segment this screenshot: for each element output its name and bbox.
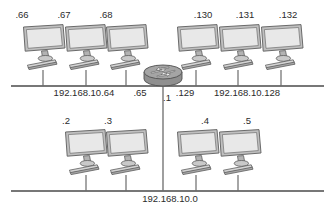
network-diagram: .66 .67 .68 .130 .131 .132 .2 .3 .4 .5 1…	[0, 0, 335, 218]
subnet-label-top-left: 192.168.10.64	[54, 87, 115, 98]
router-interface-label-65: .65	[133, 87, 146, 98]
router-icon	[144, 65, 182, 86]
host-130	[178, 25, 220, 70]
host-label-131: .131	[236, 9, 255, 20]
host-131	[220, 25, 262, 70]
host-label-67: .67	[57, 9, 70, 20]
host-5	[220, 130, 262, 175]
host-2	[66, 130, 108, 175]
host-label-68: .68	[99, 9, 112, 20]
host-label-132: .132	[279, 9, 298, 20]
subnet-label-bottom: 192.168.10.0	[142, 193, 197, 204]
host-3	[107, 130, 149, 175]
router-interface-label-129: .129	[176, 87, 195, 98]
subnet-label-top-right: 192.168.10.128	[214, 87, 280, 98]
host-label-4: .4	[201, 115, 209, 126]
host-68	[107, 25, 149, 70]
host-label-66: .66	[15, 9, 28, 20]
host-67	[66, 25, 108, 70]
host-label-5: .5	[243, 115, 251, 126]
host-66	[24, 25, 66, 70]
host-4	[178, 130, 220, 175]
host-label-3: .3	[104, 115, 112, 126]
router-interface-label-1: .1	[163, 92, 171, 103]
host-label-2: .2	[62, 115, 70, 126]
host-132	[262, 25, 304, 70]
host-label-130: .130	[194, 9, 213, 20]
